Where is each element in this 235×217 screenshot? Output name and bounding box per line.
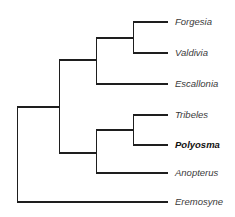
tip-label-anopterus: Anopterus [175, 167, 218, 179]
tip-label-polyosma: Polyosma [175, 139, 220, 151]
tip-label-eremosyne: Eremosyne [175, 196, 223, 208]
escallonia-clade-branch [97, 38, 169, 84]
tip-label-escallonia: Escallonia [175, 78, 218, 90]
tip-label-tribeles: Tribeles [175, 109, 208, 121]
tip-label-valdivia: Valdivia [175, 47, 208, 59]
forgesia-valdivia-clade-branch [134, 22, 169, 53]
anopterus-clade-branch [97, 130, 169, 173]
ingroup-node-branch [60, 60, 97, 153]
root-node-branch [18, 107, 169, 202]
tip-label-forgesia: Forgesia [175, 16, 212, 28]
tribeles-polyosma-clade-branch [134, 115, 169, 145]
